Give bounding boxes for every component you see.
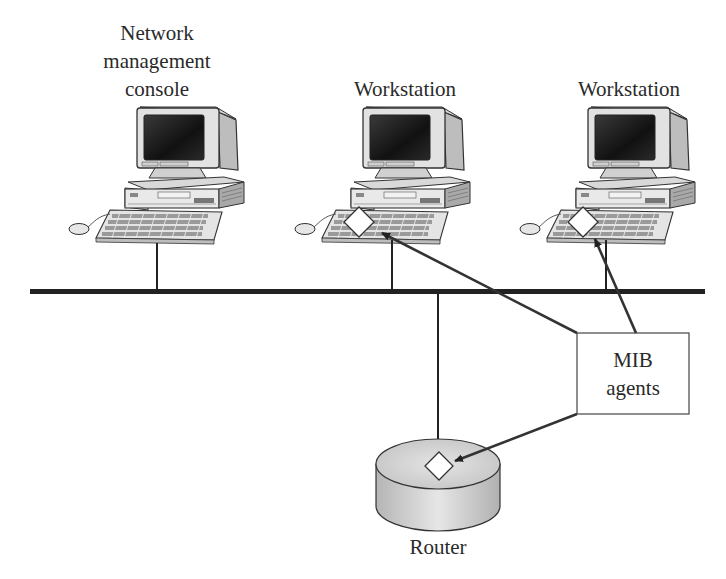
router-label: Router [409,535,466,559]
workstation-2-computer-icon [520,107,695,244]
console-computer-icon [69,107,244,244]
console-label-line-2: management [103,49,210,73]
workstation-2-label: Workstation [578,77,681,101]
mib-agents-label-line-1: MIB [613,348,653,372]
console-label-line-3: console [125,77,189,101]
mib-agents-label-line-2: agents [606,376,660,400]
console-label-line-1: Network [120,21,194,45]
console-label: Network management console [103,21,210,101]
workstation-1-computer-icon [295,107,470,244]
arrow-to-workstation-2 [595,239,636,333]
network-management-diagram: Network management console Workstation W… [0,0,726,579]
workstation-1-label: Workstation [354,77,457,101]
mib-agents-callout-box [577,333,689,414]
arrow-to-workstation-1 [382,233,577,333]
arrow-to-router [455,414,577,461]
